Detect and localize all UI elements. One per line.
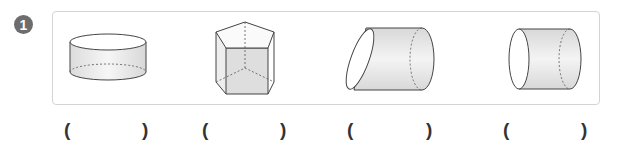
- answer-4-open-paren: (: [503, 119, 509, 141]
- horizontal-cylinder-figure: [507, 27, 583, 91]
- answer-4-close-paren: ): [581, 119, 587, 141]
- pentagonal-prism-figure: [212, 20, 278, 98]
- short-cylinder-figure: [68, 30, 148, 86]
- answer-3-close-paren: ): [426, 119, 432, 141]
- answer-1-open-paren: (: [64, 119, 70, 141]
- answer-2-open-paren: (: [202, 119, 208, 141]
- answer-3-open-paren: (: [347, 119, 353, 141]
- oblique-cylinder-figure: [344, 26, 438, 92]
- answer-2-close-paren: ): [280, 119, 286, 141]
- answer-1-close-paren: ): [142, 119, 148, 141]
- problem-number-badge: 1: [14, 15, 33, 34]
